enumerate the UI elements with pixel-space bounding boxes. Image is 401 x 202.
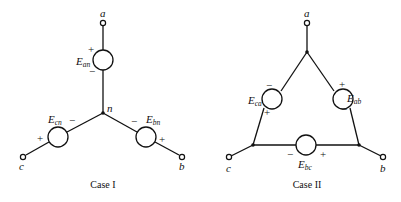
terminal-a-label: a (100, 7, 106, 19)
ecn-plus-sign: + (37, 132, 43, 144)
source-ecn-icon (48, 127, 68, 147)
eab-minus-sign: − (341, 103, 347, 115)
right-node-icon (357, 143, 361, 147)
source-ean-icon (93, 50, 113, 70)
terminal-a-icon (100, 20, 105, 25)
neutral-node-icon (101, 111, 105, 115)
ean-label: Ean (75, 55, 90, 69)
case2-delta-diagram: a c b − Eca + + Eab − − + Ebc Case II (226, 7, 386, 190)
terminal-a-label: a (304, 7, 310, 19)
terminal-b-icon (179, 154, 184, 159)
terminal-c-label: c (226, 162, 231, 174)
ebc-minus-sign: − (287, 148, 293, 160)
source-ebc-icon (296, 135, 316, 155)
ebc-label: Ebc (297, 158, 312, 172)
wire-left-node-to-c (231, 145, 253, 156)
case1-wye-diagram: a c b n + − Ean Ecn − + − Ebn + Case I (19, 7, 185, 190)
case2-caption: Case II (293, 179, 322, 190)
ebn-plus-sign: + (159, 133, 165, 145)
terminal-b-label: b (380, 162, 386, 174)
ebn-label: Ebn (145, 113, 160, 127)
ebc-plus-sign: + (320, 148, 326, 160)
eab-plus-sign: + (339, 78, 345, 90)
source-ebn-icon (136, 127, 156, 147)
wire-right-node-to-b (359, 145, 381, 156)
terminal-c-icon (20, 154, 25, 159)
ebn-minus-sign: − (131, 115, 137, 127)
top-node-icon (305, 50, 309, 54)
three-phase-source-diagram: a c b n + − Ean Ecn − + − Ebn + Case I (0, 0, 401, 202)
terminal-c-label: c (19, 160, 24, 172)
wire-eab-to-right-node (350, 108, 359, 145)
left-node-icon (251, 143, 255, 147)
eca-plus-sign: + (264, 106, 270, 118)
terminal-c-icon (226, 154, 231, 159)
neutral-label: n (107, 102, 113, 114)
case1-caption: Case I (90, 179, 115, 190)
ecn-label: Ecn (47, 113, 62, 127)
terminal-a-icon (304, 20, 309, 25)
terminal-b-label: b (179, 160, 185, 172)
wire-top-to-eab (307, 52, 334, 91)
ecn-minus-sign: − (69, 114, 75, 126)
eca-label: Eca (247, 94, 262, 108)
terminal-b-icon (380, 154, 385, 159)
eca-minus-sign: − (266, 79, 272, 91)
wire-top-to-eca (281, 52, 307, 91)
ean-plus-sign: + (88, 43, 94, 55)
eab-label: Eab (346, 92, 361, 106)
wire-eca-to-left-node (253, 108, 264, 145)
